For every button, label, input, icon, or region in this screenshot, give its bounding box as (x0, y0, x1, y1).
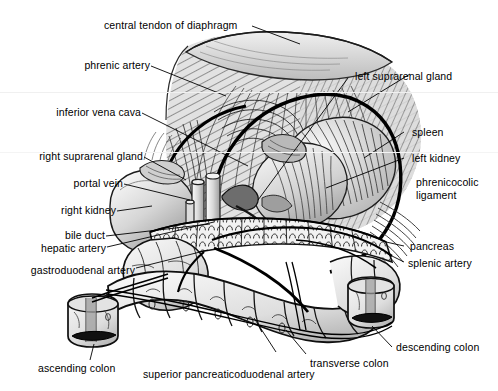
label-inferior-vena-cava: inferior vena cava (0, 106, 141, 119)
label-splenic-artery: splenic artery (408, 257, 472, 270)
label-hepatic-artery: hepatic artery (0, 242, 106, 255)
label-left-kidney: left kidney (412, 152, 460, 165)
label-superior-pancreaticoduodenal-artery: superior pancreaticoduodenal artery (143, 368, 315, 381)
portal-vein-stump (206, 173, 220, 224)
label-portal-vein: portal vein (0, 177, 123, 190)
label-left-suprarenal-gland: left suprarenal gland (355, 70, 452, 83)
anatomical-figure: central tendon of diaphragm phrenic arte… (0, 0, 498, 391)
label-phrenic-artery: phrenic artery (0, 59, 150, 72)
label-phrenicocolic-ligament-line1: phrenicocolic (416, 176, 479, 189)
label-right-kidney: right kidney (0, 204, 116, 217)
label-central-tendon-of-diaphragm: central tendon of diaphragm (104, 19, 237, 32)
label-phrenicocolic-ligament-line2: ligament (416, 189, 457, 202)
label-bile-duct: bile duct (0, 229, 105, 242)
label-transverse-colon: transverse colon (310, 357, 389, 370)
label-pancreas: pancreas (410, 240, 454, 253)
label-ascending-colon: ascending colon (38, 362, 115, 375)
label-gastroduodenal-artery: gastroduodenal artery (0, 264, 135, 277)
label-descending-colon: descending colon (396, 341, 479, 354)
descending-colon-cut-end (348, 277, 394, 328)
label-spleen: spleen (412, 126, 444, 139)
label-right-suprarenal-gland: right suprarenal gland (0, 150, 143, 163)
